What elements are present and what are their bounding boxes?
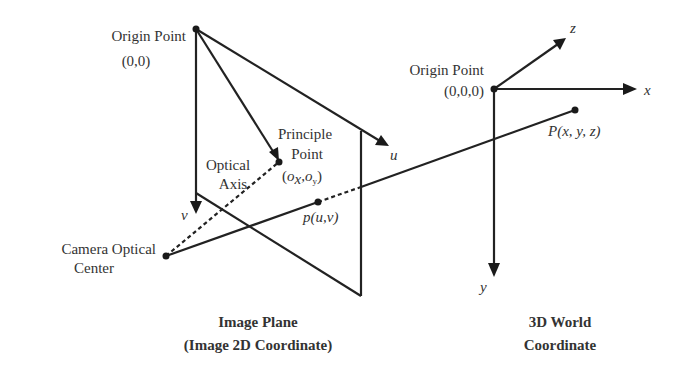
optical-axis-label-line1: Optical (206, 157, 250, 173)
v-axis-label: v (181, 207, 188, 223)
camera-center-dot (163, 253, 170, 260)
principle-point-label-line1: Principle (278, 126, 332, 142)
world-axes (488, 38, 637, 277)
image-origin-label: Origin Point (111, 28, 186, 44)
world-origin-coord: (0,0,0) (444, 83, 484, 100)
image-plane-title-line2: (Image 2D Coordinate) (184, 337, 332, 354)
world-origin-label: Origin Point (409, 62, 484, 78)
y-axis-arrowhead-icon (488, 263, 500, 277)
z-axis-line (494, 44, 558, 89)
y-axis-label: y (478, 279, 487, 295)
z-axis-arrowhead-icon (553, 38, 566, 50)
camera-center-label-line1: Camera Optical (61, 241, 156, 257)
ray-camera-to-image-point (166, 202, 318, 256)
image-point-dot (315, 199, 322, 206)
u-axis-label: u (390, 147, 398, 163)
optical-axis-label-line2: Axis (219, 176, 248, 192)
u-axis-line (196, 29, 380, 141)
world-title-line1: 3D World (529, 314, 592, 330)
z-axis-label: z (569, 20, 576, 36)
world-title-line2: Coordinate (524, 337, 597, 353)
world-origin-dot (491, 86, 498, 93)
principle-point-vector (196, 29, 274, 153)
image-origin-dot (193, 26, 200, 33)
camera-projection-diagram: Origin Point (0,0) Principle Point (ox,o… (0, 0, 676, 379)
camera-center-label-line2: Center (74, 260, 114, 276)
x-axis-arrowhead-icon (623, 83, 637, 95)
image-origin-coord: (0,0) (122, 53, 151, 70)
ray-behind-plane (318, 187, 361, 202)
world-point-label: P(x, y, z) (547, 123, 600, 140)
principle-point-coord: (ox,oy) (282, 168, 322, 187)
image-point-label: p(u,v) (302, 209, 338, 226)
v-axis-arrowhead-icon (190, 201, 202, 214)
x-axis-label: x (643, 82, 651, 98)
image-plane-title-line1: Image Plane (218, 314, 298, 330)
principle-point-label-line2: Point (291, 146, 324, 162)
world-point-dot (572, 107, 579, 114)
